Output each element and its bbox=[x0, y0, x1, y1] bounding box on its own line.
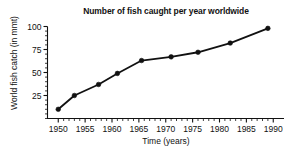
data-point bbox=[72, 93, 77, 98]
y-tick-label: 50 bbox=[32, 68, 42, 78]
data-point bbox=[196, 50, 201, 55]
x-tick-label: 1970 bbox=[156, 124, 175, 134]
x-tick-label: 1960 bbox=[103, 124, 122, 134]
data-point bbox=[56, 107, 61, 112]
y-tick-label: 75 bbox=[32, 45, 42, 55]
y-tick-label: 25 bbox=[32, 91, 42, 101]
x-axis-tick-labels: 195019551960196519701975198019851990 bbox=[49, 124, 283, 134]
y-tick-label: 100 bbox=[27, 22, 41, 32]
x-tick-label: 1950 bbox=[49, 124, 68, 134]
data-point bbox=[169, 55, 174, 60]
x-tick-label: 1980 bbox=[210, 124, 229, 134]
data-point bbox=[139, 58, 144, 63]
chart-figure: Number of fish caught per year worldwide… bbox=[0, 0, 292, 152]
x-tick-label: 1990 bbox=[264, 124, 283, 134]
axis-lines bbox=[48, 27, 285, 119]
plot-area: 255075100 195019551960196519701975198019… bbox=[0, 0, 292, 152]
data-point bbox=[266, 26, 271, 31]
x-tick-label: 1955 bbox=[76, 124, 95, 134]
data-series-line bbox=[58, 28, 268, 109]
data-series-markers bbox=[56, 26, 270, 112]
x-tick-label: 1985 bbox=[237, 124, 256, 134]
series-polyline bbox=[58, 28, 268, 109]
data-point bbox=[228, 41, 233, 46]
data-point bbox=[96, 82, 101, 87]
x-tick-label: 1975 bbox=[183, 124, 202, 134]
y-axis-ticks bbox=[44, 27, 48, 96]
y-axis-tick-labels: 255075100 bbox=[27, 22, 41, 101]
data-point bbox=[115, 71, 120, 76]
x-tick-label: 1965 bbox=[129, 124, 148, 134]
